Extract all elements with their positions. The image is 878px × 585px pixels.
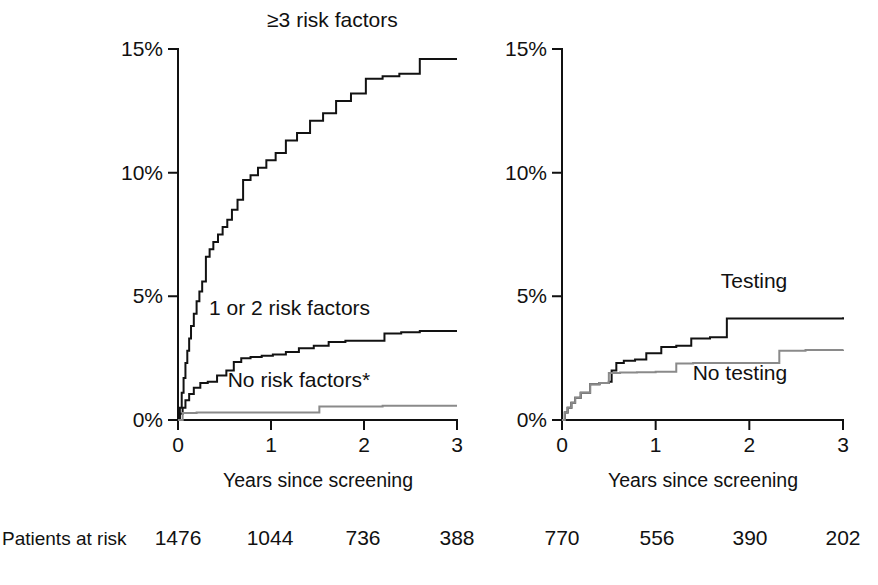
series-label-right-1: No testing — [693, 361, 788, 384]
y-tick-label-left-1: 5% — [133, 284, 163, 307]
x-tick-label-left-1: 1 — [265, 433, 277, 456]
kaplan-meier-figure: 0%5%10%15%0123Years since screening≥3 ri… — [0, 0, 878, 585]
figure-container: 0%5%10%15%0123Years since screening≥3 ri… — [0, 0, 878, 585]
y-tick-label-left-2: 10% — [121, 161, 163, 184]
x-axis-title-right: Years since screening — [608, 469, 798, 491]
series-label-right-0: Testing — [721, 269, 788, 292]
x-axis-right — [562, 420, 843, 429]
patients-at-risk-label: Patients at risk — [2, 528, 127, 549]
x-tick-label-right-1: 1 — [650, 433, 662, 456]
y-tick-label-right-0: 0% — [517, 408, 547, 431]
patients-at-risk-right-0: 770 — [544, 526, 579, 549]
y-tick-label-left-0: 0% — [133, 408, 163, 431]
panel-right: 0%5%10%15%0123Years since screeningTesti… — [505, 37, 849, 491]
patients-at-risk-right-2: 390 — [732, 526, 767, 549]
panel-left: 0%5%10%15%0123Years since screening≥3 ri… — [121, 8, 463, 491]
series-curve-left-0 — [178, 59, 457, 420]
series-label-left-0: ≥3 risk factors — [267, 8, 398, 31]
series-label-left-2: No risk factors* — [228, 368, 370, 391]
x-axis-left — [178, 420, 457, 429]
patients-at-risk-row: Patients at risk147610447363887705563902… — [2, 526, 861, 549]
x-tick-label-left-3: 3 — [451, 433, 463, 456]
y-tick-label-right-2: 10% — [505, 161, 547, 184]
y-axis-right — [553, 49, 562, 420]
y-tick-label-right-1: 5% — [517, 284, 547, 307]
y-tick-label-left-3: 15% — [121, 37, 163, 60]
x-tick-label-right-2: 2 — [743, 433, 755, 456]
x-axis-title-left: Years since screening — [223, 469, 413, 491]
patients-at-risk-left-3: 388 — [439, 526, 474, 549]
x-tick-label-left-2: 2 — [358, 433, 370, 456]
x-tick-label-right-0: 0 — [556, 433, 568, 456]
series-curve-left-2 — [178, 406, 457, 420]
x-tick-label-right-3: 3 — [837, 433, 849, 456]
patients-at-risk-left-2: 736 — [345, 526, 380, 549]
series-label-left-1: 1 or 2 risk factors — [209, 296, 370, 319]
y-axis-left — [169, 49, 178, 420]
x-tick-label-left-0: 0 — [172, 433, 184, 456]
y-tick-label-right-3: 15% — [505, 37, 547, 60]
patients-at-risk-right-1: 556 — [639, 526, 674, 549]
patients-at-risk-left-1: 1044 — [247, 526, 294, 549]
patients-at-risk-right-3: 202 — [825, 526, 860, 549]
patients-at-risk-left-0: 1476 — [155, 526, 202, 549]
